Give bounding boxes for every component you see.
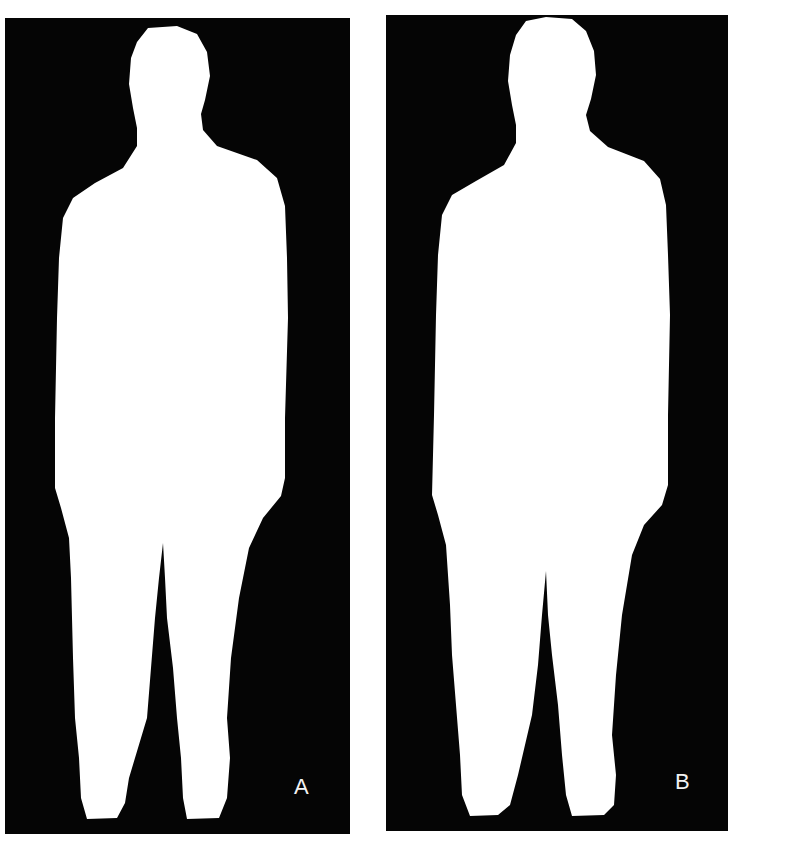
person-silhouette-b (386, 15, 728, 831)
person-silhouette-a (5, 18, 350, 834)
panel-label-b: B (675, 769, 690, 795)
figure-caption-clipped (0, 846, 785, 860)
figure-panel-a: A (5, 18, 350, 834)
panel-label-a: A (294, 774, 309, 800)
figure-panel-b: B (386, 15, 728, 831)
